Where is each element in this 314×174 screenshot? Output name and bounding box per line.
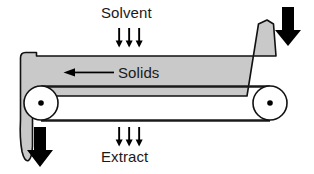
extract-drain-arrow-1	[116, 127, 123, 147]
solvent-label: Solvent	[101, 4, 152, 21]
belt-extractor-diagram: Solvent Solids Extract	[0, 0, 314, 174]
right-pulley-hub	[267, 100, 273, 106]
solvent-spray-arrows	[116, 28, 143, 48]
left-pulley-hub	[38, 100, 44, 106]
extract-drain-arrows	[116, 127, 143, 147]
solvent-spray-arrow-3	[136, 28, 143, 48]
diagram-canvas	[0, 0, 314, 174]
extract-drain-arrow-3	[136, 127, 143, 147]
solvent-spray-arrow-2	[126, 28, 133, 48]
left-pulley	[24, 86, 58, 120]
solids-label: Solids	[118, 64, 159, 81]
feed-inlet-arrow	[275, 7, 301, 46]
solids-bed	[20, 20, 276, 161]
right-pulley	[253, 86, 287, 120]
extract-drain-arrow-2	[126, 127, 133, 147]
extract-label: Extract	[101, 148, 148, 165]
solvent-spray-arrow-1	[116, 28, 123, 48]
